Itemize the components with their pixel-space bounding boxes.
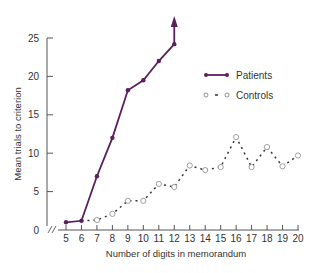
x-tick-label: 6 (79, 233, 85, 244)
controls-data-point (234, 134, 239, 139)
x-axis: 567891011121314151617181920 (58, 225, 304, 244)
controls-data-point (264, 144, 269, 149)
x-tick-label: 13 (184, 233, 196, 244)
y-tick-label: 0 (33, 225, 39, 236)
patients-data-point (79, 219, 83, 223)
controls-data-point (187, 163, 192, 168)
x-tick-label: 20 (292, 233, 304, 244)
x-tick-label: 8 (110, 233, 116, 244)
controls-data-point (125, 198, 130, 203)
x-tick-label: 19 (277, 233, 289, 244)
y-tick-label: 10 (28, 148, 40, 159)
line-chart: 0510152025 567891011121314151617181920 P… (0, 0, 323, 273)
x-tick-label: 17 (246, 233, 258, 244)
controls-data-point (94, 217, 99, 222)
patients-data-point (110, 136, 114, 140)
patients-data-point (64, 220, 68, 224)
x-tick-label: 16 (231, 233, 243, 244)
patients-data-point (126, 88, 130, 92)
series-patients (64, 16, 178, 225)
x-tick-label: 9 (125, 233, 131, 244)
y-tick-label: 5 (33, 186, 39, 197)
y-tick-label: 15 (28, 109, 40, 120)
controls-data-point (172, 184, 177, 189)
x-tick-label: 12 (169, 233, 181, 244)
patients-data-point (157, 59, 161, 63)
controls-data-point (156, 181, 161, 186)
controls-data-point (295, 153, 300, 158)
controls-data-point (203, 167, 208, 172)
y-tick-label: 20 (28, 71, 40, 82)
legend-controls-label: Controls (236, 90, 273, 101)
y-axis-label: Mean trials to criterion (12, 87, 23, 180)
x-tick-label: 15 (215, 233, 227, 244)
series-controls (81, 134, 300, 222)
x-tick-label: 7 (94, 233, 100, 244)
x-axis-label: Number of digits in memorandum (106, 248, 247, 259)
controls-data-point (218, 164, 223, 169)
controls-data-point (249, 164, 254, 169)
x-tick-label: 5 (63, 233, 69, 244)
y-tick-label: 25 (28, 33, 40, 44)
y-axis: 0510152025 (28, 33, 56, 236)
x-tick-label: 18 (262, 233, 274, 244)
legend: Patients Controls (204, 70, 273, 101)
arrow-up-icon (171, 16, 178, 27)
chart-canvas: 0510152025 567891011121314151617181920 P… (0, 0, 323, 273)
legend-controls-marker (225, 93, 229, 97)
x-tick-label: 11 (154, 233, 165, 244)
legend-patients-marker (204, 73, 208, 77)
legend-controls-marker (204, 93, 208, 97)
x-tick-label: 10 (138, 233, 150, 244)
legend-patients-marker (225, 73, 229, 77)
controls-data-point (280, 164, 285, 169)
controls-data-point (141, 198, 146, 203)
legend-patients-label: Patients (236, 70, 272, 81)
x-tick-label: 14 (200, 233, 212, 244)
patients-data-point (95, 174, 99, 178)
patients-data-point (141, 78, 145, 82)
controls-data-point (110, 211, 115, 216)
